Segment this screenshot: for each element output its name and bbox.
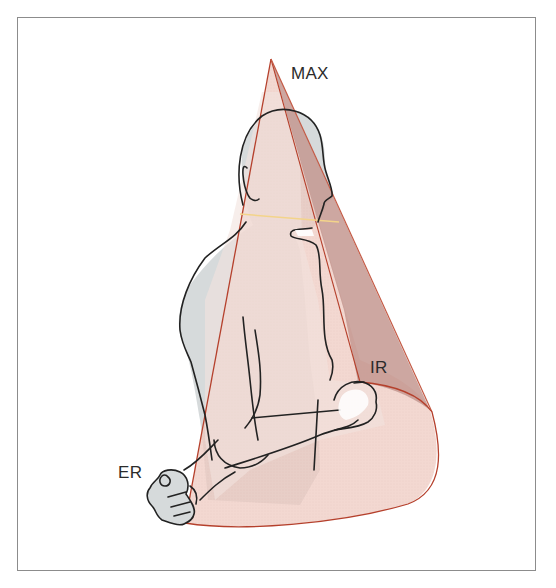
neck-highlight bbox=[295, 230, 314, 236]
shoulder-rotation-illustration bbox=[0, 0, 556, 588]
external-rotation-label: ER bbox=[118, 463, 142, 483]
internal-rotation-label: IR bbox=[370, 358, 388, 378]
ir-thumb bbox=[354, 382, 364, 383]
max-label: MAX bbox=[291, 64, 329, 84]
er-fist-outline bbox=[147, 470, 194, 525]
